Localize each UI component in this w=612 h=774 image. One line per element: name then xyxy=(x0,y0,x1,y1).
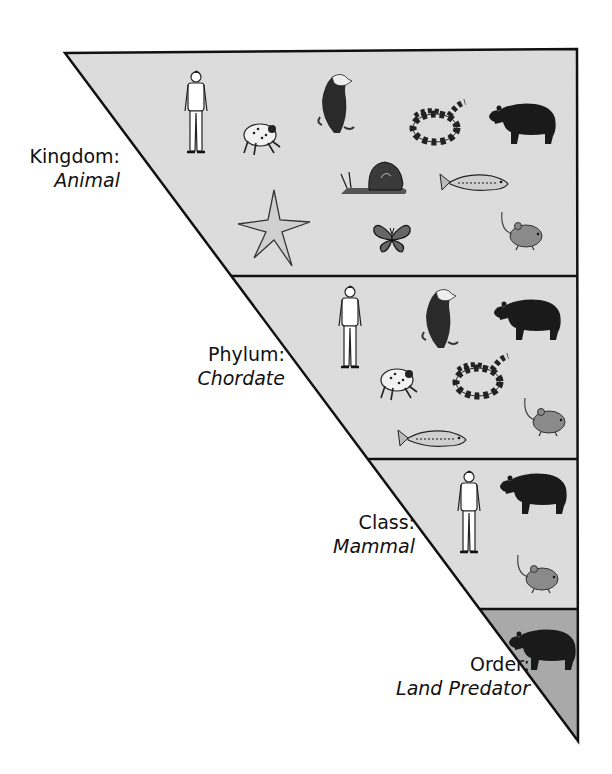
label-kingdom: Kingdom: Animal xyxy=(10,144,120,192)
label-phylum: Phylum: Chordate xyxy=(170,342,285,390)
taxon-mammal: Mammal xyxy=(300,534,415,558)
label-class: Class: Mammal xyxy=(300,510,415,558)
taxon-chordate: Chordate xyxy=(170,366,285,390)
rank-class: Class: xyxy=(300,510,415,534)
rank-phylum: Phylum: xyxy=(170,342,285,366)
rank-kingdom: Kingdom: xyxy=(10,144,120,168)
label-order: Order: Land Predator xyxy=(380,652,530,700)
taxon-land-predator: Land Predator xyxy=(380,676,530,700)
rank-order: Order: xyxy=(380,652,530,676)
band-kingdom xyxy=(65,49,577,276)
taxon-animal: Animal xyxy=(10,168,120,192)
